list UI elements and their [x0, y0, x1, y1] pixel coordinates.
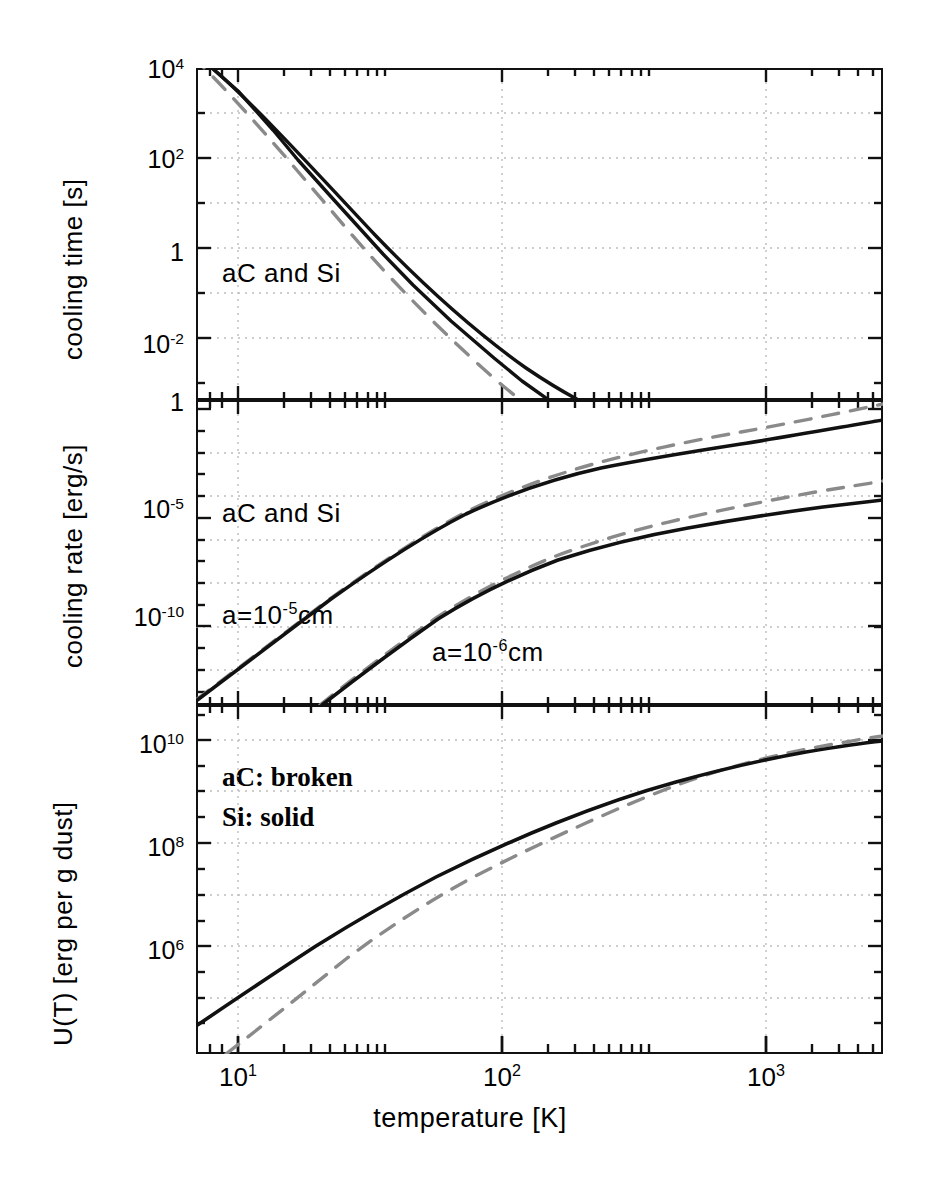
ytick-3-1: 108	[80, 833, 184, 862]
xtick-10-3: 103	[716, 1062, 816, 1093]
curve-cooling-time-ac	[196, 68, 856, 400]
ticks-panel1	[196, 68, 883, 400]
figure-root: cooling time [s] 104 102 1 10-2 aC and S…	[0, 0, 934, 1177]
panel-internal-energy-ylabel: U(T) [erg per g dust]	[48, 801, 79, 1046]
ytick-3-2: 106	[80, 936, 184, 965]
ytick-1-1: 102	[80, 145, 184, 174]
ytick-2-2: 10-10	[70, 603, 184, 632]
ytick-2-0: 1	[80, 388, 184, 417]
curve-rate-a5-ac	[196, 404, 883, 700]
ticks-panel2	[196, 400, 883, 705]
curve-cooling-time-si-main	[212, 68, 861, 400]
ytick-1-0: 104	[80, 55, 184, 84]
ytick-2-1: 10-5	[80, 495, 184, 524]
ytick-3-0: 1010	[68, 730, 184, 759]
ytick-1-2: 1	[80, 238, 184, 267]
curve-rate-a6-si	[322, 500, 883, 705]
x-axis-label: temperature [K]	[340, 1103, 600, 1134]
curve-rate-a5-si	[196, 420, 883, 701]
gridlines-panel2	[196, 400, 883, 705]
xtick-10-1: 101	[188, 1062, 288, 1093]
xtick-10-2: 102	[452, 1062, 552, 1093]
ytick-1-3: 10-2	[80, 330, 184, 359]
curve-rate-a6-ac	[320, 481, 883, 705]
panel-cooling-rate-ylabel: cooling rate [erg/s]	[58, 444, 89, 668]
gridlines-panel1	[196, 68, 883, 400]
curve-energy-si	[196, 741, 883, 1026]
